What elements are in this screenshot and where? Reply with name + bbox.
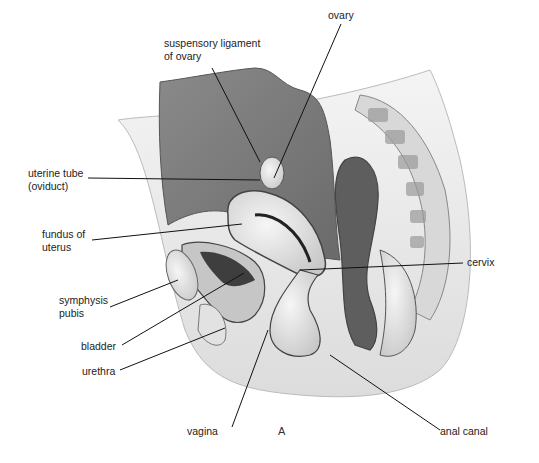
label-line: uterus (42, 241, 85, 254)
label-bladder: bladder (81, 340, 116, 353)
label-line: anal canal (440, 425, 488, 438)
ovary-shape (260, 157, 284, 189)
label-anal-canal: anal canal (440, 425, 488, 438)
label-vagina: vagina (187, 425, 218, 438)
label-line: suspensory ligament (164, 37, 260, 50)
label-fundus-of-uterus: fundus of uterus (42, 228, 85, 254)
label-ovary: ovary (328, 9, 354, 22)
label-line: bladder (81, 340, 116, 353)
label-urethra: urethra (82, 365, 115, 378)
label-line: pubis (59, 307, 108, 320)
panel-letter: A (278, 425, 285, 437)
label-line: vagina (187, 425, 218, 438)
label-line: uterine tube (28, 167, 83, 180)
label-line: (oviduct) (28, 180, 83, 193)
label-cervix: cervix (467, 256, 494, 269)
label-line: of ovary (164, 50, 260, 63)
label-line: fundus of (42, 228, 85, 241)
label-symphysis-pubis: symphysis pubis (59, 294, 108, 320)
label-line: symphysis (59, 294, 108, 307)
label-line: urethra (82, 365, 115, 378)
label-line: ovary (328, 9, 354, 22)
label-suspensory-ligament: suspensory ligament of ovary (164, 37, 260, 63)
label-line: cervix (467, 256, 494, 269)
label-uterine-tube: uterine tube (oviduct) (28, 167, 83, 193)
